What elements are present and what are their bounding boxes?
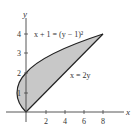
x-tick-label: 6 — [82, 117, 86, 126]
y-tick-label: 1 — [17, 89, 21, 98]
x-tick-label: 2 — [44, 117, 48, 126]
region-plot: 2 4 6 8 1 2 3 4 y x x + 1 = (y − 1)² x =… — [0, 0, 134, 129]
parabola-label: x + 1 = (y − 1)² — [34, 30, 84, 39]
y-axis-label: y — [22, 9, 27, 19]
y-tick-label: 3 — [17, 49, 21, 58]
line-label: x = 2y — [70, 71, 91, 80]
y-tick-label: 2 — [17, 69, 21, 78]
y-tick-label: 4 — [17, 30, 21, 39]
x-tick-label: 8 — [101, 117, 105, 126]
x-tick-label: 4 — [63, 117, 67, 126]
diagram-canvas: 2 4 6 8 1 2 3 4 y x x + 1 = (y − 1)² x =… — [0, 0, 134, 129]
x-axis-label: x — [125, 107, 130, 117]
